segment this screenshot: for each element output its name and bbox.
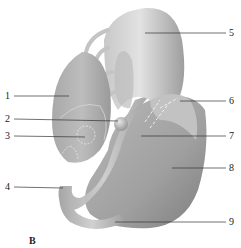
label-6: 6	[229, 96, 234, 106]
label-7: 7	[229, 131, 234, 141]
anatomical-diagram	[0, 0, 241, 248]
label-5: 5	[229, 28, 234, 38]
small-sphere	[114, 117, 128, 131]
label-9: 9	[229, 217, 234, 227]
label-3: 3	[5, 131, 10, 141]
label-8: 8	[229, 163, 234, 173]
label-1: 1	[5, 91, 10, 101]
panel-letter: B	[29, 235, 36, 246]
left-lobe	[52, 52, 111, 163]
label-4: 4	[5, 182, 10, 192]
label-2: 2	[5, 114, 10, 124]
